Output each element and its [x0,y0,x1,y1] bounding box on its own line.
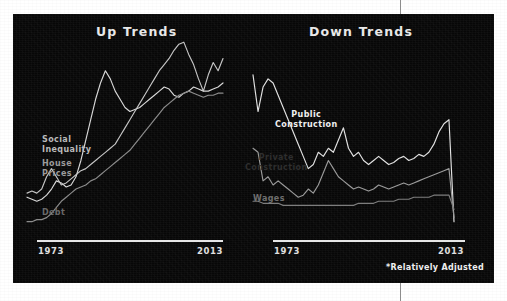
series-label-house-prices: House Prices [42,159,72,178]
up-trends-axis-end-label: 2013 [197,246,223,256]
series-label-private-construction: Private Construction [245,153,308,172]
up-trends-axis-start-label: 1973 [38,246,64,256]
series-label-public-construction: Public Construction [275,110,338,129]
infographic-root: Up Trends 1973 2013 Social Inequality Ho… [0,0,507,301]
series-label-wages: Wages [253,194,285,204]
up-trends-axis-line [37,240,223,242]
down-trends-axis-line [273,240,465,242]
series-label-social-inequality: Social Inequality [42,135,91,154]
down-trends-plot [253,34,458,240]
footnote: *Relatively Adjusted [386,263,484,272]
series-label-debt: Debt [42,208,65,218]
down-trends-axis-start-label: 1973 [274,246,300,256]
down-trends-axis-end-label: 2013 [438,246,464,256]
series-line-debt [27,91,223,222]
